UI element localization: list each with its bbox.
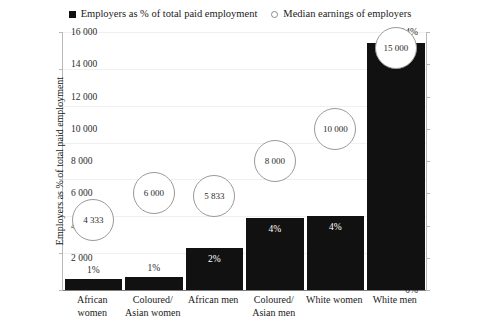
bar-value-label: 1%: [125, 263, 183, 273]
left-axis-tick: [59, 253, 63, 254]
legend-label-median-earnings: Median earnings of employers: [283, 7, 411, 21]
category-label-line: Asian men: [244, 307, 305, 320]
category-label-line: African men: [183, 294, 244, 307]
left-axis-tick: [59, 32, 63, 33]
chart-figure: Employers as % of total paid employment …: [0, 0, 480, 335]
category-label: Coloured/Asian women: [123, 294, 184, 319]
right-axis-tick: [426, 64, 430, 65]
right-axis-tick: [426, 97, 430, 98]
category-label: African men: [183, 294, 244, 307]
left-axis-tick: [59, 290, 63, 291]
bubble-marker: 10 000: [314, 108, 356, 150]
legend-item-median-earnings: Median earnings of employers: [271, 7, 411, 21]
right-axis-tick: [426, 161, 430, 162]
category-label: White women: [304, 294, 365, 307]
bubble-marker: 15 000: [375, 27, 417, 69]
filled-square-marker-icon: [69, 11, 76, 18]
bar: [125, 277, 183, 290]
category-label: White men: [365, 294, 426, 307]
right-axis-tick: [426, 258, 430, 259]
right-axis-tick-label: 10 000: [71, 124, 97, 134]
right-axis-tick-label: 16 000: [71, 27, 97, 37]
plot-area: 0%2%4%6%8%10%12%14% 2 0004 0006 0008 000…: [62, 32, 427, 291]
category-label-line: White men: [365, 294, 426, 307]
gridline: [63, 32, 426, 33]
category-label: Coloured/Asian men: [244, 294, 305, 319]
bar-value-label: 1%: [65, 265, 123, 275]
right-axis-tick: [426, 290, 430, 291]
category-label-line: Coloured/: [123, 294, 184, 307]
right-axis-tick: [426, 226, 430, 227]
bubble-marker: 6 000: [133, 172, 175, 214]
bar: [367, 43, 425, 290]
right-axis-tick: [426, 193, 430, 194]
right-axis-tick-label: 8 000: [71, 156, 92, 166]
category-label-line: African women: [62, 294, 123, 319]
right-axis-tick: [426, 32, 430, 33]
bubble-marker: 4 333: [72, 199, 114, 241]
chart-legend: Employers as % of total paid employment …: [0, 7, 480, 21]
right-axis-tick-label: 12 000: [71, 92, 97, 102]
bubble-marker: 5 833: [193, 175, 235, 217]
right-axis-tick-label: 14 000: [71, 59, 97, 69]
right-axis-tick: [426, 129, 430, 130]
legend-label-employers-share: Employers as % of total paid employment: [81, 7, 258, 21]
bar-value-label: 4%: [246, 224, 304, 234]
left-axis-tick: [59, 69, 63, 70]
category-label-line: White women: [304, 294, 365, 307]
bar: [65, 279, 123, 290]
category-label-line: Coloured/: [244, 294, 305, 307]
legend-item-employers-share: Employers as % of total paid employment: [69, 7, 258, 21]
category-label-line: Asian women: [123, 307, 184, 320]
open-circle-marker-icon: [271, 11, 278, 18]
bar-value-label: 4%: [307, 222, 365, 232]
right-axis-tick-label: 2 000: [71, 253, 92, 263]
bar-value-label: 2%: [186, 254, 244, 264]
right-axis-tick-label: 6 000: [71, 188, 92, 198]
left-axis-title: Employers as % of total paid employment: [54, 77, 65, 245]
bubble-marker: 8 000: [254, 140, 296, 182]
category-label: African women: [62, 294, 123, 319]
